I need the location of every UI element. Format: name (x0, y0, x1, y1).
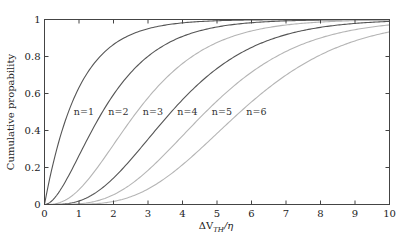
x-tick-label: 7 (283, 208, 289, 219)
y-tick-label: 1 (34, 14, 40, 25)
x-tick-label: 5 (214, 208, 220, 219)
curve-label: n=4 (177, 106, 197, 117)
y-tick-label: 0.2 (25, 162, 41, 173)
x-tick-label: 3 (145, 208, 151, 219)
y-axis-title: Cumulative propability (5, 53, 16, 170)
x-tick-label: 8 (317, 208, 323, 219)
curve-label: n=3 (143, 106, 163, 117)
x-tick-label: 9 (352, 208, 358, 219)
x-tick-label: 1 (76, 208, 82, 219)
curve-label: n=2 (108, 106, 128, 117)
y-tick-label: 0.6 (25, 88, 41, 99)
cumulative-probability-chart: 012345678910 00.20.40.60.81 n=1n=2n=3n=4… (0, 0, 409, 243)
x-axis-title: ΔVTH/η (199, 220, 234, 234)
x-tick-label: 10 (383, 208, 396, 219)
x-tick-label: 0 (41, 208, 47, 219)
curve-label: n=1 (74, 106, 94, 117)
y-tick-label: 0.4 (25, 125, 41, 136)
x-axis-ticks: 012345678910 (41, 20, 396, 220)
x-tick-label: 2 (110, 208, 116, 219)
y-tick-label: 0 (34, 199, 40, 210)
x-tick-label: 6 (248, 208, 254, 219)
curve-n-6 (45, 32, 390, 205)
curve-label: n=5 (212, 106, 232, 117)
curve-label: n=6 (246, 106, 266, 117)
y-tick-label: 0.8 (25, 51, 41, 62)
x-tick-label: 4 (179, 208, 185, 219)
